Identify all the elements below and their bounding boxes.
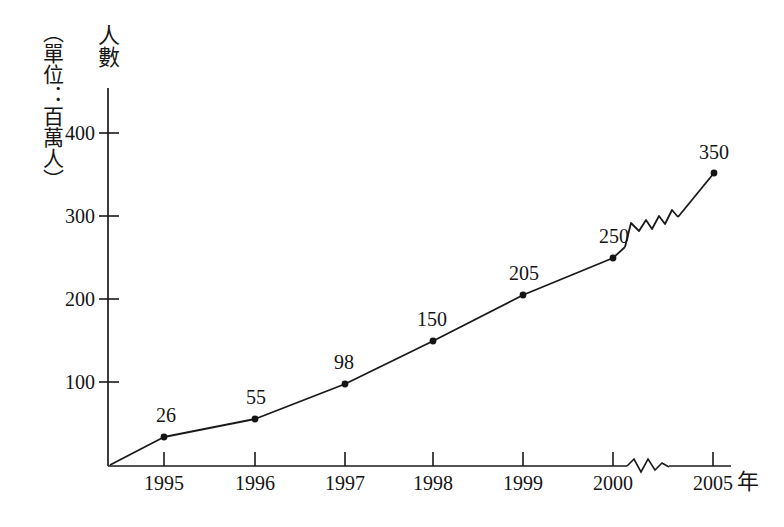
x-axis-ticks — [164, 452, 713, 466]
y-tick-label-100: 100 — [65, 371, 95, 394]
chart-figure: （單位：百萬人） 人數 年 — [0, 0, 784, 527]
data-line-segment-1 — [110, 247, 625, 465]
data-label-2005: 350 — [699, 141, 729, 164]
x-tick-label-1996: 1996 — [235, 472, 275, 495]
x-tick-label-1998: 1998 — [413, 472, 453, 495]
data-line-break-zigzag-icon — [625, 210, 678, 247]
chart-canvas — [0, 0, 784, 527]
data-point-markers — [161, 170, 718, 441]
data-line-segment-2 — [678, 173, 714, 217]
x-tick-label-2005: 2005 — [693, 472, 733, 495]
x-tick-label-1999: 1999 — [503, 472, 543, 495]
data-label-1995: 26 — [156, 404, 176, 427]
data-point-1997 — [342, 381, 349, 388]
x-axis-break-zigzag-icon — [627, 459, 669, 472]
data-label-1999: 205 — [509, 262, 539, 285]
data-point-2005 — [711, 170, 718, 177]
data-label-1997: 98 — [334, 351, 354, 374]
x-tick-label-2000: 2000 — [593, 472, 633, 495]
y-tick-label-200: 200 — [65, 288, 95, 311]
data-point-1995 — [161, 434, 168, 441]
data-label-1996: 55 — [246, 386, 266, 409]
y-tick-label-300: 300 — [65, 205, 95, 228]
x-tick-label-1997: 1997 — [325, 472, 365, 495]
data-point-1999 — [520, 292, 527, 299]
data-label-1998: 150 — [417, 308, 447, 331]
data-label-2000: 250 — [599, 225, 629, 248]
x-tick-label-1995: 1995 — [144, 472, 184, 495]
data-point-1998 — [430, 338, 437, 345]
data-point-1996 — [252, 416, 259, 423]
y-tick-label-400: 400 — [65, 122, 95, 145]
data-point-2000 — [610, 255, 617, 262]
y-axis-ticks — [99, 133, 119, 382]
